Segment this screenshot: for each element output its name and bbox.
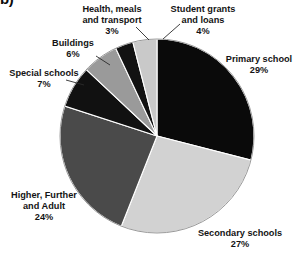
callout-higher-value: 24% [2, 212, 86, 223]
callout-grants-line2: and loans [158, 15, 248, 26]
callout-buildings-line1: Buildings [36, 38, 110, 49]
callout-health-value: 3% [64, 26, 160, 37]
callout-primary-line1: Primary school [222, 54, 296, 65]
callout-secondary-schools: Secondary schools 27% [186, 228, 294, 250]
callout-higher-line1: Higher, Further [2, 190, 86, 201]
callout-grants-value: 4% [158, 26, 248, 37]
callout-buildings: Buildings 6% [36, 38, 110, 60]
callout-secondary-line1: Secondary schools [186, 228, 294, 239]
callout-health-line1: Health, meals [64, 4, 160, 15]
callout-student-grants-loans: Student grants and loans 4% [158, 4, 248, 38]
callout-special-schools: Special schools 7% [2, 68, 86, 90]
callout-buildings-value: 6% [36, 49, 110, 60]
callout-grants-line1: Student grants [158, 4, 248, 15]
callout-primary-value: 29% [222, 65, 296, 76]
callout-higher-line2: and Adult [2, 201, 86, 212]
callout-health-line2: and transport [64, 15, 160, 26]
callout-special-value: 7% [2, 79, 86, 90]
callout-health-meals-transport: Health, meals and transport 3% [64, 4, 160, 38]
callout-secondary-value: 27% [186, 239, 294, 250]
callout-higher-further-adult: Higher, Further and Adult 24% [2, 190, 86, 224]
pie-chart-figure: b) Health, meals and transport 3% Studen… [0, 0, 297, 257]
callout-primary-school: Primary school 29% [222, 54, 296, 76]
callout-special-line1: Special schools [2, 68, 86, 79]
